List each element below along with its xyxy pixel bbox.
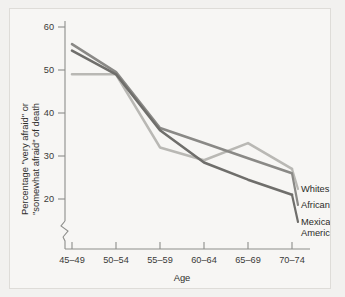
x-tick-label-1: 50–54: [103, 255, 129, 265]
chart-figure: Percentage "very afraid" or "somewhat af…: [9, 8, 331, 289]
x-tick-label-4: 65–69: [235, 255, 261, 265]
x-tick-label-3: 60–64: [191, 255, 217, 265]
axis-break-icon: [61, 221, 68, 237]
legend-label-whites: Whites: [301, 184, 330, 194]
y-tick-label-50: 50: [44, 65, 54, 75]
line-chart: Percentage "very afraid" or "somewhat af…: [10, 9, 330, 288]
x-tick-label-2: 55–59: [147, 255, 173, 265]
y-tick-label-40: 40: [44, 108, 54, 118]
series-line-mexican-americans: [72, 51, 292, 195]
y-tick-label-20: 20: [44, 194, 54, 204]
y-tick-label-30: 30: [44, 151, 54, 161]
x-axis-title: Age: [174, 272, 191, 283]
y-axis-tick-labels: 60 50 40 30 20: [44, 22, 54, 204]
series-line-whites: [72, 74, 292, 169]
y-tick-label-60: 60: [44, 22, 54, 32]
y-axis-title-line2: "somewhat afraid" of death: [30, 103, 41, 215]
y-axis-ticks: [58, 27, 65, 199]
y-axis-title-line1: Percentage "very afraid" or: [19, 103, 30, 215]
legend-label-mexican-americans-line2: Americans: [301, 228, 330, 238]
x-tick-label-0: 45–49: [59, 255, 85, 265]
y-axis-line-lower: [63, 237, 65, 249]
x-tick-label-5: 70–74: [279, 255, 305, 265]
x-axis-tick-labels: 45–49 50–54 55–59 60–64 65–69 70–74: [59, 255, 305, 265]
x-axis-ticks: [72, 242, 292, 249]
legend-label-mexican-americans-line1: Mexican: [301, 217, 330, 227]
legend-label-african-americans: African Americans: [301, 200, 330, 210]
